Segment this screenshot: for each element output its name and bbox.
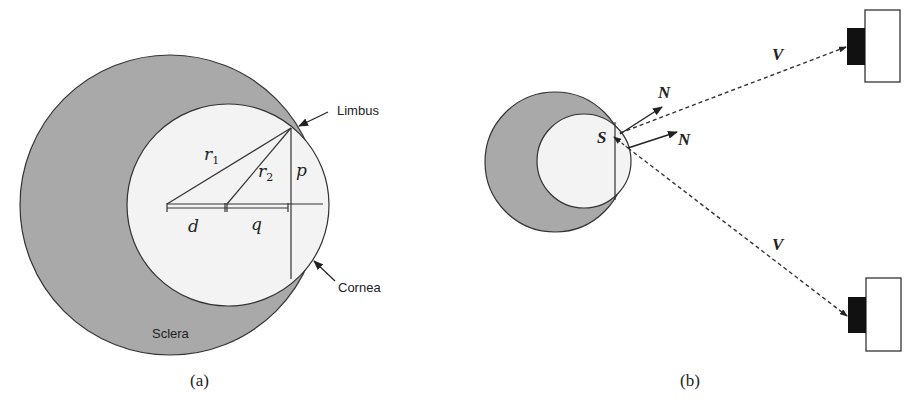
camera-top-lens xyxy=(847,28,865,65)
panel-a: r1 r2 p d q Limbus Cornea Sclera (a) xyxy=(20,55,381,390)
panel-b-caption: (b) xyxy=(680,371,700,390)
camera-top-body xyxy=(865,10,900,82)
normal-arrow-top xyxy=(620,107,662,134)
q-label: q xyxy=(251,214,262,234)
n-top-label: N xyxy=(657,83,671,102)
cornea-circle xyxy=(127,104,329,306)
n-bottom-label: N xyxy=(677,130,691,149)
limbus-label: Limbus xyxy=(337,103,379,118)
panel-b: S N N V V (b) xyxy=(485,10,901,390)
d-label: d xyxy=(188,216,199,236)
view-ray-bottom xyxy=(628,148,847,316)
limbus-arrow xyxy=(299,112,328,126)
p-label: p xyxy=(296,160,307,180)
normal-arrow-bottom xyxy=(628,132,677,148)
s-label: S xyxy=(597,128,606,147)
cornea-label: Cornea xyxy=(338,280,381,295)
v-bottom-label: V xyxy=(772,235,785,254)
eye-geometry-figure: r1 r2 p d q Limbus Cornea Sclera (a) S N… xyxy=(0,0,915,406)
view-ray-top xyxy=(620,47,846,133)
cornea-arrow xyxy=(314,261,335,281)
camera-bottom xyxy=(848,278,901,351)
camera-top xyxy=(847,10,900,82)
camera-bottom-lens xyxy=(848,297,866,333)
panel-a-caption: (a) xyxy=(190,371,209,390)
v-top-label: V xyxy=(772,45,785,64)
sclera-label: Sclera xyxy=(152,326,190,341)
cornea-circle-b xyxy=(537,114,631,208)
camera-bottom-body xyxy=(866,278,901,351)
